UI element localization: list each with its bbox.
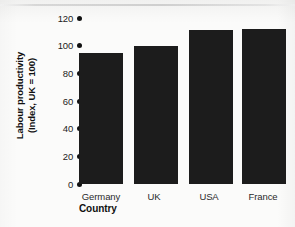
bar-slot-france (242, 18, 286, 184)
y-axis-tick-120: 120 (36, 12, 82, 24)
y-axis-title-line1: Labour productivity (15, 51, 26, 138)
x-axis-label-usa: USA (185, 189, 233, 203)
bar-germany[interactable] (79, 53, 123, 184)
y-axis-tick-20: 20 (36, 150, 82, 162)
bar-uk[interactable] (134, 46, 178, 184)
y-axis-tick-label: 120 (58, 13, 73, 24)
y-axis-tick-40: 40 (36, 123, 82, 135)
plot-area (79, 18, 286, 184)
bar-slot-usa (189, 18, 233, 184)
x-axis-title: Country (79, 203, 117, 214)
y-axis-tick-100: 100 (36, 40, 82, 52)
y-axis-tick-label: 20 (63, 151, 73, 162)
x-axis-label-uk: UK (130, 189, 178, 203)
y-axis-tick-label: 40 (63, 123, 73, 134)
bar-slot-germany (79, 18, 123, 184)
y-axis-tick-60: 60 (36, 95, 82, 107)
y-axis-tick-80: 80 (36, 67, 82, 79)
bar-usa[interactable] (189, 30, 233, 184)
bar-france[interactable] (242, 29, 286, 184)
x-axis-label-france: France (238, 189, 288, 203)
bar-slot-uk (134, 18, 178, 184)
y-axis-tick-label: 80 (63, 68, 73, 79)
x-axis-label-germany: Germany (74, 189, 128, 203)
y-axis-tick-label: 100 (58, 40, 73, 51)
chart-screenshot: Labour productivity (Index, UK = 100) 12… (0, 0, 295, 227)
y-axis-tick-label: 60 (63, 96, 73, 107)
y-axis-tick-label: 0 (68, 179, 73, 190)
